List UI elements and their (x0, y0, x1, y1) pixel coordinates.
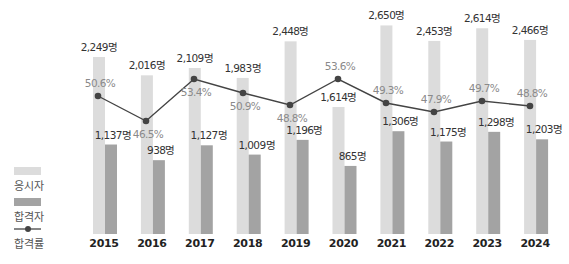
label-pass-rate-2020: 53.6% (325, 60, 356, 72)
x-tick-2015: 2015 (89, 237, 118, 250)
label-passers-2021: 1,306명 (382, 115, 418, 127)
legend-dot-icon (25, 226, 31, 232)
pass-rate-dot-2023 (479, 98, 486, 105)
legend: 응시자 합격자 합격률 (14, 167, 44, 251)
pass-rate-polyline (98, 79, 530, 121)
bar-applicants-2020 (333, 107, 345, 234)
label-pass-rate-2021: 49.3% (373, 84, 404, 96)
pass-rate-dot-2015 (95, 93, 102, 100)
label-applicants-2024: 2,466명 (512, 24, 548, 36)
pass-rate-dot-2019 (287, 102, 294, 109)
bar-applicants-2023 (476, 28, 488, 234)
label-pass-rate-2019: 48.8% (277, 112, 308, 124)
label-applicants-2019: 2,448명 (272, 25, 308, 37)
label-pass-rate-2017: 53.4% (181, 86, 212, 98)
bar-passers-2021 (392, 131, 404, 234)
legend-label-pass-rate: 합격률 (14, 238, 44, 251)
bar-passers-2024 (536, 139, 548, 234)
x-axis-labels: 2015201620172018201920202021202220232024 (89, 237, 550, 250)
legend-label-passers: 합격자 (14, 211, 44, 224)
label-applicants-2017: 2,109명 (177, 52, 213, 64)
label-pass-rate-2022: 47.9% (421, 93, 452, 105)
label-applicants-2022: 2,453명 (416, 25, 452, 37)
label-applicants-2015: 2,249명 (81, 41, 117, 53)
bar-applicants-2019 (285, 41, 297, 234)
pass-rate-dot-2016 (143, 118, 150, 125)
label-passers-2022: 1,175명 (430, 126, 466, 138)
label-passers-2016: 938명 (147, 144, 175, 156)
x-tick-2022: 2022 (425, 237, 454, 250)
label-passers-2023: 1,298명 (478, 116, 514, 128)
bar-passers-2015 (105, 145, 117, 234)
bar-passers-2022 (440, 142, 452, 234)
x-tick-2016: 2016 (137, 237, 167, 250)
bar-passers-2018 (249, 155, 261, 234)
legend-label-applicants: 응시자 (14, 180, 44, 193)
pass-rate-dot-2022 (431, 109, 438, 116)
label-passers-2017: 1,127명 (191, 129, 227, 141)
legend-swatch-passers (14, 198, 41, 206)
bar-applicants-2024 (524, 40, 536, 234)
pass-rate-dot-2017 (191, 76, 198, 83)
label-pass-rate-2023: 49.7% (469, 82, 500, 94)
label-applicants-2018: 1,983명 (224, 62, 260, 74)
label-applicants-2016: 2,016명 (129, 59, 165, 71)
label-passers-2020: 865명 (339, 150, 367, 162)
label-pass-rate-2018: 50.9% (230, 100, 261, 112)
x-tick-2021: 2021 (377, 237, 406, 250)
x-tick-2019: 2019 (281, 237, 310, 250)
label-passers-2015: 1,137명 (95, 129, 131, 141)
pass-rate-dot-2024 (527, 103, 534, 110)
x-tick-2023: 2023 (472, 237, 501, 250)
label-applicants-2023: 2,614명 (464, 12, 500, 24)
label-passers-2018: 1,009명 (238, 139, 274, 151)
label-pass-rate-2024: 48.8% (517, 87, 548, 99)
pass-rate-dot-2020 (335, 76, 342, 83)
pass-rate-line (95, 76, 534, 125)
label-applicants-2020: 1,614명 (320, 91, 356, 103)
bar-line-chart: 2,249명1,137명50.6%2,016명938명46.5%2,109명1,… (0, 0, 569, 264)
bar-passers-2023 (488, 132, 500, 234)
legend-swatch-applicants (14, 167, 41, 175)
x-tick-2024: 2024 (520, 237, 550, 250)
bar-passers-2017 (201, 145, 213, 234)
bar-passers-2019 (297, 140, 309, 234)
bar-passers-2016 (153, 160, 165, 234)
label-pass-rate-2015: 50.6% (85, 77, 116, 89)
label-passers-2024: 1,203명 (526, 123, 562, 135)
bar-applicants-2021 (380, 25, 392, 234)
pass-rate-dot-2021 (383, 100, 390, 107)
x-tick-2020: 2020 (329, 237, 359, 250)
label-passers-2019: 1,196명 (286, 124, 322, 136)
bar-passers-2020 (345, 166, 357, 234)
pass-rate-dot-2018 (240, 90, 247, 97)
label-pass-rate-2016: 46.5% (133, 128, 164, 140)
x-tick-2018: 2018 (233, 237, 262, 250)
label-applicants-2021: 2,650명 (368, 9, 404, 21)
x-tick-2017: 2017 (185, 237, 214, 250)
